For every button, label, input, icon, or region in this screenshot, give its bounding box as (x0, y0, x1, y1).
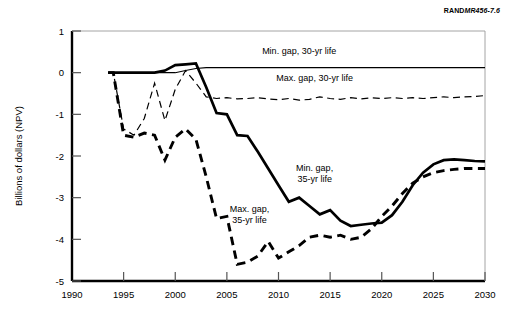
y-tick-label: -4 (56, 234, 64, 245)
y-tick-label: -1 (56, 109, 64, 120)
x-axis-ticks: 199019952000200520102015202020252030 (61, 272, 495, 300)
y-tick-label: -2 (56, 151, 64, 162)
y-tick-label: 1 (59, 26, 64, 37)
x-tick-label: 2015 (320, 289, 341, 300)
series-annotation-3-line2: 35-yr life (232, 215, 267, 225)
line-chart-plot: 10-1-2-3-4-5 199019952000200520102015202… (0, 0, 516, 317)
axes-frame (72, 31, 485, 281)
y-axis-title: Billions of dollars (NPV) (13, 106, 24, 206)
series-annotation-2-line1: Min. gap, (296, 163, 333, 173)
x-tick-label: 2025 (423, 289, 444, 300)
series-annotation-3-line1: Max. gap, (230, 204, 270, 214)
x-tick-label: 2005 (216, 289, 237, 300)
y-tick-label: -3 (56, 192, 64, 203)
x-tick-label: 1990 (61, 289, 82, 300)
series-annotation-2-line2: 35-yr life (297, 174, 332, 184)
y-axis-ticks: 10-1-2-3-4-5 (56, 26, 81, 287)
y-tick-label: 0 (59, 67, 64, 78)
chart-figure: RANDMR456-7.6 10-1-2-3-4-5 1990199520002… (0, 0, 516, 317)
x-tick-label: 2030 (474, 289, 495, 300)
series-line-2 (108, 64, 485, 227)
x-tick-label: 1995 (113, 289, 134, 300)
x-tick-label: 2010 (268, 289, 289, 300)
x-tick-label: 2000 (165, 289, 186, 300)
y-tick-label: -5 (56, 276, 64, 287)
x-tick-label: 2020 (371, 289, 392, 300)
series-annotation-1: Max. gap, 30-yr life (276, 73, 353, 83)
series-annotation-0: Min. gap, 30-yr life (262, 46, 336, 56)
